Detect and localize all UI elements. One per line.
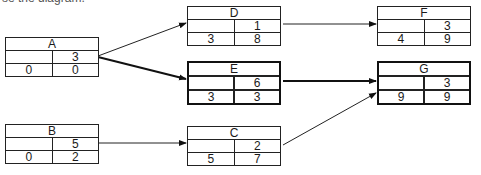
- node-a: A 3 00: [5, 37, 99, 77]
- edge-c-g: [283, 93, 376, 145]
- node-g-duration: 3: [425, 77, 469, 89]
- node-g-label: G: [379, 63, 469, 77]
- node-b-duration: 5: [53, 138, 99, 150]
- node-b: B 5 02: [5, 124, 99, 164]
- node-d: D 1 38: [187, 6, 281, 46]
- node-b-finish: 2: [53, 151, 99, 163]
- node-d-finish: 8: [235, 33, 281, 45]
- node-a-finish: 0: [53, 64, 99, 76]
- node-c-finish: 7: [235, 153, 281, 165]
- node-e-label: E: [189, 63, 279, 77]
- node-e-start: 3: [189, 91, 235, 103]
- node-d-duration: 1: [235, 20, 281, 32]
- node-g: G 3 99: [377, 61, 471, 105]
- node-c-label: C: [188, 127, 280, 140]
- node-g-start: 9: [379, 91, 425, 103]
- edge-a-e: [98, 57, 186, 79]
- node-f-duration: 3: [425, 20, 471, 32]
- node-c-duration: 2: [235, 140, 281, 152]
- node-g-finish: 9: [425, 91, 469, 103]
- node-f-finish: 9: [425, 33, 471, 45]
- node-f-start: 4: [378, 33, 425, 45]
- node-e: E 6 33: [187, 61, 281, 105]
- node-f: F 3 49: [377, 6, 471, 46]
- node-f-label: F: [378, 7, 470, 20]
- node-a-start: 0: [6, 64, 53, 76]
- node-c: C 2 57: [187, 126, 281, 166]
- node-a-duration: 3: [53, 51, 99, 63]
- node-e-finish: 3: [235, 91, 279, 103]
- edge-a-d: [98, 23, 186, 56]
- node-a-label: A: [6, 38, 98, 51]
- node-e-duration: 6: [235, 77, 279, 89]
- node-b-start: 0: [6, 151, 53, 163]
- node-d-label: D: [188, 7, 280, 20]
- node-c-start: 5: [188, 153, 235, 165]
- node-b-label: B: [6, 125, 98, 138]
- node-d-start: 3: [188, 33, 235, 45]
